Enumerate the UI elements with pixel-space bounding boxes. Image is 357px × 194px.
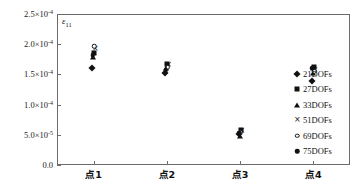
y-tick-mark <box>57 14 61 15</box>
legend-marker <box>292 131 302 141</box>
legend-label: 27DOFs <box>303 84 332 94</box>
legend-marker <box>292 69 302 79</box>
x-tick-mark <box>313 161 314 165</box>
x-tick-label: 点1 <box>85 167 102 181</box>
y-tick-mark <box>57 165 61 166</box>
open-circle-marker-icon <box>295 134 300 139</box>
x-tick-mark <box>240 161 241 165</box>
chart-figure: ε11 0.05.0×10-51.0×10-41.5×10-42.0×10-42… <box>0 0 357 194</box>
triangle-marker-icon <box>294 102 300 107</box>
x-tick-label: 点3 <box>232 167 249 181</box>
y-tick-mark <box>57 135 61 136</box>
y-axis-label: ε11 <box>62 16 72 28</box>
chart-legend: 21DOFs27DOFs33DOFs×51DOFs69DOFs75DOFs <box>292 66 350 159</box>
legend-marker <box>292 100 302 110</box>
y-tick-label: 2.5×10-4 <box>0 9 53 20</box>
legend-item[interactable]: 75DOFs <box>292 144 350 160</box>
y-tick-label: 2.0×10-4 <box>0 39 53 50</box>
legend-item[interactable]: 27DOFs <box>292 82 350 98</box>
legend-marker <box>292 146 302 156</box>
x-tick-label: 点4 <box>305 167 322 181</box>
y-tick-mark <box>57 44 61 45</box>
diamond-marker-icon <box>293 70 300 77</box>
y-tick-label: 5.0×10-5 <box>0 129 53 140</box>
y-tick-mark <box>57 105 61 106</box>
legend-label: 69DOFs <box>303 131 332 141</box>
y-tick-mark <box>57 74 61 75</box>
filled-circle-marker-icon <box>295 149 300 154</box>
legend-label: 21DOFs <box>303 69 332 79</box>
legend-label: 75DOFs <box>303 146 332 156</box>
y-tick-label: 1.0×10-4 <box>0 99 53 110</box>
x-tick-label: 点2 <box>159 167 176 181</box>
y-tick-label: 1.5×10-4 <box>0 69 53 80</box>
square-marker-icon <box>295 87 300 92</box>
legend-label: 33DOFs <box>303 100 332 110</box>
legend-item[interactable]: 33DOFs <box>292 97 350 113</box>
legend-item[interactable]: ×51DOFs <box>292 113 350 129</box>
y-axis-label-subscript: 11 <box>66 21 72 28</box>
legend-marker <box>292 84 302 94</box>
x-tick-mark <box>167 161 168 165</box>
cross-marker-icon: × <box>294 117 300 123</box>
y-tick-label: 0.0 <box>0 160 53 170</box>
legend-item[interactable]: 69DOFs <box>292 128 350 144</box>
legend-item[interactable]: 21DOFs <box>292 66 350 82</box>
legend-marker: × <box>292 115 302 125</box>
legend-label: 51DOFs <box>303 115 332 125</box>
x-tick-mark <box>94 161 95 165</box>
